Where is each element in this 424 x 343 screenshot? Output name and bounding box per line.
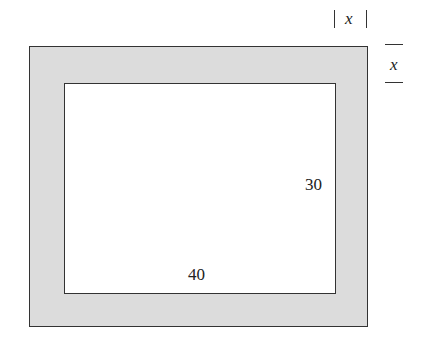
- dimension-tick-left: [334, 10, 335, 28]
- dimension-tick-top: [385, 44, 403, 45]
- border-width-label-right: x: [390, 56, 398, 73]
- height-label: 30: [305, 176, 322, 193]
- inner-rectangle: [64, 83, 336, 294]
- dimension-tick-bottom: [385, 82, 403, 83]
- dimension-tick-right: [366, 10, 367, 28]
- width-label: 40: [188, 266, 205, 283]
- border-width-label-top: x: [345, 10, 353, 27]
